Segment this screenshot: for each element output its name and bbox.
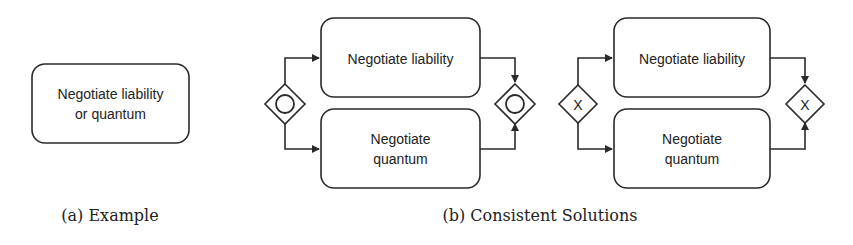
caption-a: (a) Example: [61, 206, 158, 225]
bpmn-figure: Negotiate liability or quantum (a) Examp…: [0, 0, 853, 245]
panel-a: Negotiate liability or quantum (a) Examp…: [32, 64, 189, 225]
task-label: Negotiate liability: [639, 51, 745, 67]
solution-inclusive: Negotiate liability Negotiate quantum: [265, 18, 535, 188]
flow-split-top: [578, 58, 612, 85]
join-gateway-inclusive: [495, 84, 535, 124]
solution-exclusive: X Negotiate liability Negotiate quantum …: [559, 18, 824, 188]
task-label-line1: Negotiate liability: [58, 86, 164, 102]
task-label-line2: quantum: [665, 151, 719, 167]
x-icon: X: [800, 97, 810, 113]
flow-join-top: [480, 58, 515, 82]
flow-join-bottom: [770, 123, 805, 149]
flow-split-bottom: [285, 124, 319, 149]
caption-b: (b) Consistent Solutions: [443, 206, 638, 225]
task-negotiate-liability-or-quantum: [32, 64, 189, 143]
task-label-line1: Negotiate: [662, 131, 722, 147]
flow-join-top: [770, 58, 805, 83]
task-negotiate-quantum: [321, 109, 480, 188]
split-gateway-inclusive: [265, 84, 305, 124]
x-icon: X: [573, 97, 583, 113]
flow-split-bottom: [578, 123, 612, 149]
task-label-line1: Negotiate: [371, 131, 431, 147]
flow-split-top: [285, 58, 319, 84]
task-negotiate-quantum: [614, 109, 770, 188]
flow-join-bottom: [480, 124, 515, 149]
task-label-line2: or quantum: [75, 106, 146, 122]
task-label: Negotiate liability: [348, 51, 454, 67]
task-label-line2: quantum: [373, 151, 427, 167]
